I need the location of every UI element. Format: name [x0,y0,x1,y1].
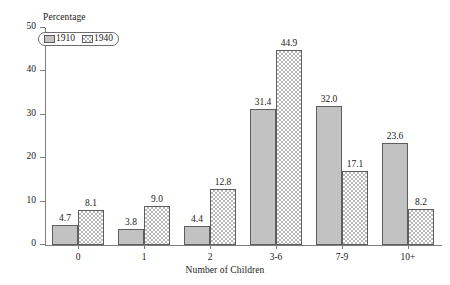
bar-value-label: 8.2 [415,197,427,207]
x-category-label: 10+ [401,252,416,262]
x-tick-mark [276,245,277,249]
bar-chart: Percentage 01020304050 4.78.13.89.04.412… [0,0,450,285]
x-tick-mark [408,245,409,249]
x-category-label: 2 [208,252,213,262]
y-tick-label: 50 [27,21,37,31]
x-tick-mark [342,245,343,249]
y-tick-label: 40 [27,64,37,74]
bar-value-label: 8.1 [85,198,97,208]
x-tick-mark [78,245,79,249]
bar: 8.2 [408,209,434,245]
bar-value-label: 3.8 [125,217,137,227]
x-category-label: 7-9 [336,252,349,262]
bar-value-label: 17.1 [347,159,364,169]
bar: 17.1 [342,171,368,245]
legend-label: 1910 [56,34,75,44]
y-tick-label: 0 [31,238,36,248]
bar-value-label: 32.0 [321,94,338,104]
x-category-label: 0 [76,252,81,262]
chart-legend: 19101940 [38,32,119,46]
x-category-label: 1 [142,252,147,262]
bar-value-label: 4.7 [59,213,71,223]
bar: 3.8 [118,229,144,245]
plot-area: 4.78.13.89.04.412.831.444.932.017.123.68… [45,28,441,245]
bar: 31.4 [250,109,276,245]
legend-item: 1940 [82,34,113,44]
bar-value-label: 23.6 [387,131,404,141]
x-tick-mark [210,245,211,249]
y-tick-label: 20 [27,151,37,161]
y-tick-label: 10 [27,195,37,205]
legend-label: 1940 [94,34,113,44]
legend-swatch [44,35,55,43]
x-axis-line [45,245,442,246]
x-axis-title: Number of Children [0,265,450,275]
bar-value-label: 9.0 [151,194,163,204]
bar: 12.8 [210,189,236,245]
x-tick-mark [144,245,145,249]
legend-item: 1910 [44,34,75,44]
bar-value-label: 12.8 [215,177,232,187]
bar: 9.0 [144,206,170,245]
bar: 4.7 [52,225,78,245]
bar: 23.6 [382,143,408,245]
bar-value-label: 31.4 [255,97,272,107]
bar: 4.4 [184,226,210,245]
x-category-label: 3-6 [270,252,283,262]
y-tick-label: 30 [27,108,37,118]
bar: 8.1 [78,210,104,245]
bar-value-label: 4.4 [191,214,203,224]
bar: 44.9 [276,50,302,245]
bar-value-label: 44.9 [281,38,298,48]
bar: 32.0 [316,106,342,245]
legend-swatch [82,35,93,43]
y-axis-title: Percentage [43,12,86,22]
